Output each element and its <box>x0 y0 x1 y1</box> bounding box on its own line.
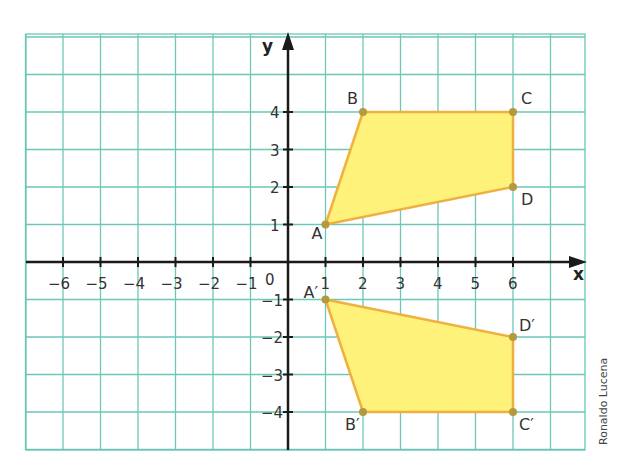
y-tick-label: −4 <box>261 404 283 422</box>
x-tick-label: −1 <box>236 275 258 293</box>
point-b <box>359 108 367 116</box>
x-tick-label: 4 <box>433 275 443 293</box>
point-label: B′ <box>345 415 360 434</box>
origin-label: 0 <box>265 271 275 289</box>
y-tick-label: −1 <box>261 292 283 310</box>
point-label: D′ <box>519 316 535 335</box>
point-d-prime <box>509 333 517 341</box>
y-tick-label: −3 <box>261 367 283 385</box>
y-tick-label: 4 <box>270 104 280 122</box>
point-label: A <box>312 224 323 243</box>
x-tick-label: 2 <box>358 275 368 293</box>
point-c-prime <box>509 408 517 416</box>
point-label: C′ <box>519 415 534 434</box>
y-tick-label: 1 <box>270 217 280 235</box>
x-tick-label: 3 <box>396 275 406 293</box>
point-b-prime <box>359 408 367 416</box>
point-label: A′ <box>304 283 319 302</box>
x-tick-label: 6 <box>508 275 518 293</box>
y-tick-label: 2 <box>270 179 280 197</box>
point-a <box>322 221 330 229</box>
x-axis-label: x <box>573 264 584 284</box>
y-axis-label: y <box>262 36 273 56</box>
polygon-abcd <box>326 112 514 225</box>
point-c <box>509 108 517 116</box>
credit-text: Ronaldo Lucena <box>597 358 610 445</box>
y-tick-label: 3 <box>270 142 280 160</box>
x-tick-label: 1 <box>321 275 331 293</box>
x-tick-label: −5 <box>86 275 108 293</box>
x-tick-label: −6 <box>48 275 70 293</box>
coordinate-plane-chart: xy−6−5−4−3−2−11234564321−1−2−3−40ABCDA′B… <box>0 0 625 472</box>
y-tick-label: −2 <box>261 329 283 347</box>
point-label: B <box>347 89 358 108</box>
x-tick-label: −4 <box>123 275 145 293</box>
x-tick-label: −2 <box>198 275 220 293</box>
polygon-abcd-prime <box>326 300 514 413</box>
point-label: C <box>521 89 532 108</box>
y-axis-arrow-icon <box>282 32 294 50</box>
x-tick-label: −3 <box>161 275 183 293</box>
point-a-prime <box>322 296 330 304</box>
x-tick-label: 5 <box>471 275 481 293</box>
point-d <box>509 183 517 191</box>
point-label: D <box>521 190 533 209</box>
